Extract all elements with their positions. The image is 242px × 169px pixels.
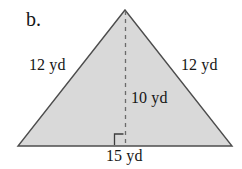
part-label: b. xyxy=(26,9,41,30)
base-length-label: 15 yd xyxy=(106,147,143,164)
right-side-length-label: 12 yd xyxy=(181,56,218,73)
left-side-length-label: 12 yd xyxy=(29,56,66,73)
geometry-figure: b. 12 yd 12 yd 10 yd 15 yd xyxy=(0,0,242,169)
height-length-label: 10 yd xyxy=(131,89,168,106)
